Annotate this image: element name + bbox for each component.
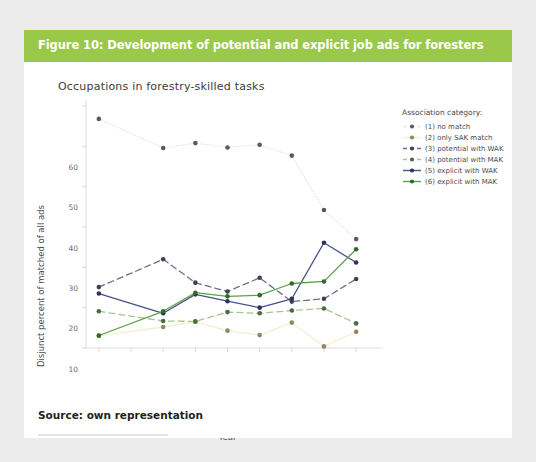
data-point-marker [257,311,262,316]
figure-caption: Figure 10: Development of potential and … [38,38,483,52]
y-axis-tick-label: 30 [52,284,78,293]
data-point-marker [322,240,327,245]
data-point-marker [354,260,359,265]
legend-swatch-icon [402,177,422,186]
data-point-marker [225,289,230,294]
legend-swatch-icon [402,155,422,164]
data-point-marker [161,325,166,330]
data-point-marker [290,320,295,325]
legend-item[interactable]: (6) explicit with MAK [402,176,512,187]
legend-item[interactable]: (1) no match [402,121,512,132]
data-point-marker [97,309,102,314]
data-point-marker [97,285,102,290]
y-axis-tick-label: 20 [52,324,78,333]
data-point-marker [97,117,102,122]
data-point-marker [257,305,262,310]
chart-card: Occupations in forestry-skilled tasks As… [24,62,512,392]
data-point-marker [322,306,327,311]
data-point-marker [322,344,327,349]
series-line [99,119,356,239]
data-point-marker [161,257,166,262]
data-point-marker [257,293,262,298]
data-point-marker [225,294,230,299]
legend-item-label: (4) potential with MAK [425,156,503,164]
y-axis-tick-label: 10 [52,365,78,374]
data-point-marker [225,310,230,315]
data-point-marker [290,281,295,286]
legend-title: Association category: [402,108,512,117]
legend-item[interactable]: (2) only SAK match [402,132,512,143]
figure-page: Figure 10: Development of potential and … [0,0,536,462]
data-point-marker [290,308,295,313]
legend-item-label: (3) potential with WAK [425,145,504,153]
data-point-marker [97,291,102,296]
data-point-marker [193,141,198,146]
data-point-marker [161,309,166,314]
data-point-marker [322,296,327,301]
data-point-marker [290,153,295,158]
data-point-marker [225,299,230,304]
legend-swatch-icon [402,144,422,153]
data-point-marker [257,276,262,281]
y-axis-tick-label: 50 [52,203,78,212]
footer-divider [38,434,168,436]
y-axis-title: Disjunct percent of matched of all ads [36,181,46,391]
data-point-marker [193,319,198,324]
legend-item-label: (2) only SAK match [425,134,493,142]
legend-item-label: (6) explicit with MAK [425,178,497,186]
data-point-marker [322,208,327,213]
source-text: Source: own representation [38,409,203,421]
legend-item-label: (5) explicit with WAK [425,167,498,175]
data-point-marker [354,277,359,282]
figure-banner: Figure 10: Development of potential and … [24,30,512,62]
legend-swatch-icon [402,122,422,131]
data-point-marker [354,330,359,335]
y-axis-tick-label: 60 [52,163,78,172]
data-point-marker [161,146,166,151]
data-point-marker [193,280,198,285]
data-point-marker [193,290,198,295]
series-line [99,322,356,347]
data-point-marker [225,145,230,150]
data-point-marker [354,321,359,326]
data-point-marker [354,247,359,252]
y-axis-tick-label: 40 [52,244,78,253]
legend-item[interactable]: (4) potential with MAK [402,154,512,165]
source-bar: Source: own representation [24,392,512,438]
legend-item[interactable]: (5) explicit with WAK [402,165,512,176]
data-point-marker [322,279,327,284]
legend-item[interactable]: (3) potential with WAK [402,143,512,154]
chart-legend: Association category: (1) no match(2) on… [402,108,512,187]
data-point-marker [161,319,166,324]
data-point-marker [225,328,230,333]
legend-swatch-icon [402,166,422,175]
data-point-marker [257,142,262,147]
legend-swatch-icon [402,133,422,142]
legend-item-label: (1) no match [425,123,470,131]
data-point-marker [257,333,262,338]
data-point-marker [354,237,359,242]
data-point-marker [290,296,295,301]
data-point-marker [97,333,102,338]
